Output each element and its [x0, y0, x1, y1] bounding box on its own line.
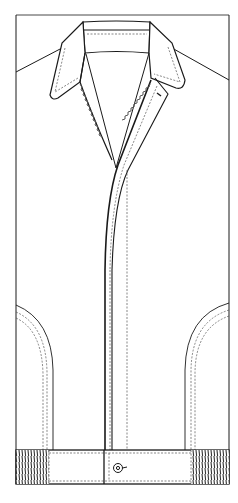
left-rib-cuff: [16, 450, 49, 484]
right-pocket: [185, 303, 229, 450]
right-rib-cuff: [191, 450, 229, 484]
collar-stand: [83, 21, 150, 53]
body: [16, 15, 229, 484]
placket: [80, 53, 168, 484]
jacket-flat-sketch: [0, 0, 238, 503]
left-pocket: [16, 305, 53, 450]
